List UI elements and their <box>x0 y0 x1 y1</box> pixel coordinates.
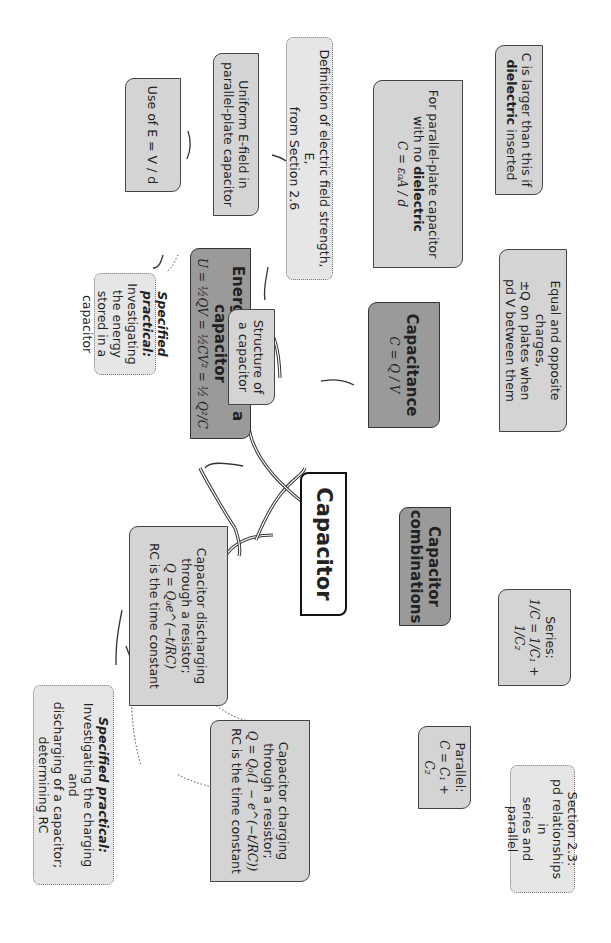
node-center-capacitor: Capacitor <box>300 472 347 616</box>
dielectric-line1: C is larger than this if <box>519 53 534 188</box>
energy-practical-line1: Investigating the energy <box>110 280 140 368</box>
structure-line1: Structure of <box>252 320 267 394</box>
node-capacitance: Capacitance C = Q / V <box>368 302 440 428</box>
node-rc-practical: Specified practical: Investigating the c… <box>33 685 114 885</box>
node-dielectric: C is larger than this if dielectric inse… <box>495 45 543 195</box>
node-field-definition: Definition of electric field strength, E… <box>286 37 333 280</box>
charging-line1: Capacitor charging <box>276 742 291 861</box>
node-parallel: Parallel: C = C₁ + C₂ <box>418 726 471 809</box>
field-definition-line2: from Section 2.6 <box>287 107 302 210</box>
equal-charges-line3: pd V between them <box>503 279 518 402</box>
rc-practical-line1: Investigating the charging and <box>66 692 96 878</box>
parallel-plate-formula: C = ε₀A / d <box>395 141 410 207</box>
section-23-line2: pd relationships in <box>535 772 565 886</box>
energy-formula: U = ½QV = ½CV² = ½ Q²/C <box>194 258 209 429</box>
uniform-field-line2: parallel-plate capacitor <box>221 62 236 207</box>
use-of-e-label: Use of E = V / d <box>146 86 161 184</box>
structure-line2: a capacitor <box>237 322 252 392</box>
node-series: Series: 1/C = 1/C₁ + 1/C₂ <box>498 589 571 686</box>
equal-charges-line2: ±Q on plates when <box>518 281 533 401</box>
combinations-line1: Capacitor <box>425 526 443 607</box>
combinations-line2: combinations <box>407 510 425 624</box>
discharging-line3: RC is the time constant <box>148 543 163 689</box>
section-23-line1: Section 2.3: <box>565 792 580 867</box>
rc-practical-line2: discharging of a capacitor; <box>51 702 66 869</box>
discharging-line2: through a resistor; <box>180 558 195 674</box>
node-charging: Capacitor charging through a resistor; Q… <box>210 720 310 882</box>
node-use-of-e: Use of E = V / d <box>125 78 181 192</box>
charging-line2: through a resistor; <box>261 743 276 859</box>
capacitance-title: Capacitance <box>404 313 422 416</box>
center-label: Capacitor <box>316 487 331 600</box>
rc-practical-title: Specified practical: <box>96 717 111 853</box>
section-23-line3: series and parallel <box>505 772 535 886</box>
parallel-plate-line1: For parallel-plate capacitor <box>427 90 442 258</box>
uniform-field-line1: Uniform E-field in <box>236 80 251 188</box>
equal-charges-line1: Equal and opposite charges, <box>533 256 563 425</box>
series-label: Series: <box>543 616 558 659</box>
charging-formula: Q = Q₀(1 − e^(−t/RC)) <box>244 731 259 872</box>
discharging-line1: Capacitor discharging <box>195 548 210 685</box>
energy-practical-line2: stored in a capacitor <box>80 280 110 368</box>
node-parallel-plate: For parallel-plate capacitor with no die… <box>373 80 463 268</box>
node-combinations: Capacitor combinations <box>399 507 451 626</box>
parallel-formula: C = C₁ + C₂ <box>421 733 451 802</box>
rc-practical-line3: determining RC <box>36 737 51 834</box>
node-energy-practical: Specified practical: Investigating the e… <box>94 273 156 375</box>
mind-map-stage: Use of E = V / d Uniform E-field in para… <box>0 0 611 943</box>
energy-practical-title: Specified practical: <box>140 280 170 368</box>
node-discharging: Capacitor discharging through a resistor… <box>129 526 228 706</box>
discharging-formula: Q = Q₀e^(−t/RC) <box>163 563 178 669</box>
parallel-label: Parallel: <box>453 743 468 793</box>
field-definition-line1: Definition of electric field strength, E… <box>302 44 332 273</box>
node-equal-charges: Equal and opposite charges, ±Q on plates… <box>499 249 567 432</box>
node-section-23: Section 2.3: pd relationships in series … <box>510 765 575 893</box>
series-formula: 1/C = 1/C₁ + 1/C₂ <box>511 596 541 679</box>
node-uniform-field: Uniform E-field in parallel-plate capaci… <box>213 53 259 216</box>
capacitance-formula: C = Q / V <box>387 336 402 393</box>
parallel-plate-line2: with no dielectric <box>412 116 427 232</box>
charging-line3: RC is the time constant <box>229 728 244 874</box>
node-structure: Structure of a capacitor <box>228 309 275 405</box>
dielectric-line2: dielectric inserted <box>504 60 519 181</box>
